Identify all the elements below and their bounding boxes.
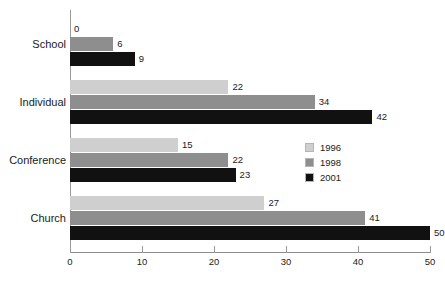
legend-label-1998: 1998 <box>320 157 341 168</box>
legend-swatch-icon-1996 <box>305 143 314 152</box>
x-axis-line <box>70 252 431 253</box>
bar-value-church-1998: 41 <box>369 211 380 225</box>
x-tick-label-40: 40 <box>353 256 364 267</box>
category-label-conference: Conference <box>0 154 66 166</box>
x-tick-label-50: 50 <box>425 256 436 267</box>
bar-conference-2001 <box>70 168 236 182</box>
bar-individual-1998 <box>70 95 315 109</box>
bar-individual-1996 <box>70 80 228 94</box>
x-tick-50 <box>430 246 431 253</box>
bars-layer: 069223442152223274150 <box>70 10 430 252</box>
bar-value-school-2001: 9 <box>139 52 144 66</box>
legend-swatch-icon-1998 <box>305 158 314 167</box>
bar-value-church-1996: 27 <box>268 196 279 210</box>
legend-item-1998[interactable]: 1998 <box>305 156 341 169</box>
legend-item-2001[interactable]: 2001 <box>305 171 341 184</box>
bar-value-individual-1998: 34 <box>319 95 330 109</box>
bar-value-conference-1996: 15 <box>182 138 193 152</box>
bar-value-church-2001: 50 <box>434 226 445 240</box>
x-tick-label-20: 20 <box>209 256 220 267</box>
x-tick-label-10: 10 <box>137 256 148 267</box>
bar-church-1996 <box>70 196 264 210</box>
bar-value-individual-1996: 22 <box>232 80 243 94</box>
bar-school-2001 <box>70 52 135 66</box>
bar-church-2001 <box>70 226 430 240</box>
bar-church-1998 <box>70 211 365 225</box>
bar-conference-1998 <box>70 153 228 167</box>
x-tick-label-0: 0 <box>67 256 72 267</box>
bar-value-school-1996: 0 <box>74 22 79 36</box>
legend-label-2001: 2001 <box>320 172 341 183</box>
category-label-church: Church <box>0 212 66 224</box>
legend-item-1996[interactable]: 1996 <box>305 141 341 154</box>
legend: 1996 1998 2001 <box>305 141 341 186</box>
bar-value-school-1998: 6 <box>117 37 122 51</box>
bar-conference-1996 <box>70 138 178 152</box>
bar-individual-2001 <box>70 110 372 124</box>
bar-value-conference-1998: 22 <box>232 153 243 167</box>
bar-school-1998 <box>70 37 113 51</box>
category-label-individual: Individual <box>0 96 66 108</box>
bar-value-conference-2001: 23 <box>240 168 251 182</box>
legend-label-1996: 1996 <box>320 142 341 153</box>
bar-value-individual-2001: 42 <box>376 110 387 124</box>
x-tick-label-30: 30 <box>281 256 292 267</box>
legend-swatch-icon-2001 <box>305 173 314 182</box>
category-label-school: School <box>0 38 66 50</box>
category-axis: School Individual Conference Church <box>0 0 66 285</box>
